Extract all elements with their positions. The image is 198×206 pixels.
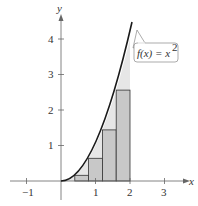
riemann-sum-diagram: −1 1 2 3 1 2 3 4 x y f(x) = x 2 [0,0,198,206]
y-axis-arrow-icon [59,14,64,21]
rectangle-3 [102,130,116,181]
tick-y-1: 1 [48,139,54,151]
function-label: f(x) = x [137,47,170,60]
x-axis-label: x [188,175,194,187]
function-callout: f(x) = x 2 [133,30,178,62]
tick-x-2: 2 [127,186,133,198]
rectangle-1 [75,175,89,181]
y-axis-label: y [56,2,62,14]
tick-x-1: 1 [93,186,99,198]
tick-y-3: 3 [48,68,54,80]
tick-x-3: 3 [161,186,167,198]
tick-x-neg1: −1 [22,186,34,198]
rectangle-4 [116,90,130,181]
tick-y-2: 2 [48,104,54,116]
rectangle-2 [89,158,103,181]
function-exponent: 2 [172,41,178,53]
tick-y-4: 4 [48,33,54,45]
